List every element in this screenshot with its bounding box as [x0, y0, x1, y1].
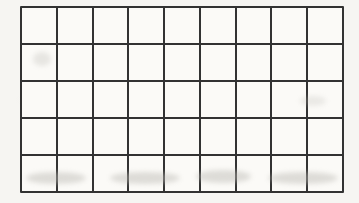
grid-cell — [237, 8, 271, 43]
grid-cell — [201, 45, 235, 80]
grid-cell — [272, 8, 306, 43]
grid-cell — [308, 119, 342, 154]
grid-cell — [94, 8, 128, 43]
grid-cell — [22, 8, 56, 43]
grid-cell — [237, 156, 271, 191]
grid-cell — [129, 45, 163, 80]
grid-cell — [308, 82, 342, 117]
grid-cell — [58, 156, 92, 191]
grid-cell — [165, 119, 199, 154]
grid-cell — [58, 45, 92, 80]
grid — [20, 6, 344, 193]
grid-cell — [129, 8, 163, 43]
grid-cell — [129, 82, 163, 117]
grid-cell — [165, 156, 199, 191]
grid-cell — [58, 82, 92, 117]
grid-cell — [272, 82, 306, 117]
grid-cell — [94, 82, 128, 117]
grid-cell — [165, 45, 199, 80]
grid-cell — [308, 156, 342, 191]
grid-cell — [237, 119, 271, 154]
grid-cell — [94, 45, 128, 80]
grid-cell — [58, 119, 92, 154]
grid-cell — [94, 119, 128, 154]
grid-cell — [165, 8, 199, 43]
grid-cell — [94, 156, 128, 191]
grid-cell — [58, 8, 92, 43]
grid-cell — [272, 119, 306, 154]
grid-cell — [22, 119, 56, 154]
grid-cell — [201, 8, 235, 43]
grid-cell — [22, 156, 56, 191]
grid-cell — [272, 45, 306, 80]
grid-cell — [201, 82, 235, 117]
grid-cell — [165, 82, 199, 117]
grid-cell — [22, 82, 56, 117]
grid-cell — [237, 45, 271, 80]
grid-cell — [201, 156, 235, 191]
grid-cell — [237, 82, 271, 117]
grid-cell — [129, 156, 163, 191]
grid-cell — [201, 119, 235, 154]
grid-cell — [308, 8, 342, 43]
grid-cell — [272, 156, 306, 191]
grid-cell — [129, 119, 163, 154]
grid-cell — [22, 45, 56, 80]
grid-cell — [308, 45, 342, 80]
